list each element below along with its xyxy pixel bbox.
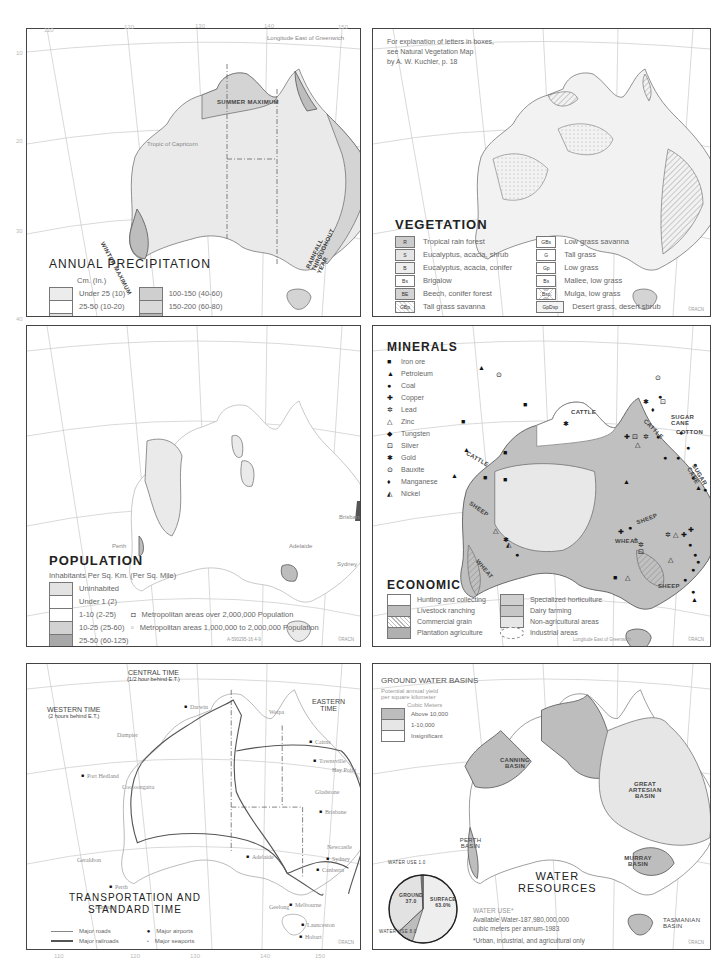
metro-legend: ◘Metropolitan areas over 2,000,000 Popul…: [131, 608, 319, 634]
coal-marker-icon: ●: [688, 541, 692, 548]
coal-marker-icon: ●: [691, 588, 695, 595]
legend-item: Insignificant: [381, 730, 478, 741]
legend-label: Insignificant: [411, 733, 443, 739]
greenwich-label: Longitude East of Greenwich: [267, 35, 344, 41]
pie-label-water-use-ground: WATER USE 1.0: [388, 860, 426, 865]
tick-label: 150: [338, 24, 348, 30]
economic-title: ECONOMIC: [387, 578, 461, 592]
petroleum-marker-icon: ▲: [451, 472, 458, 479]
tick-label: 30: [16, 228, 23, 234]
credit: ©RACN: [688, 637, 704, 642]
legend-item: 25-50 (60-125): [49, 634, 176, 647]
legend-item: GBpTall grass savanna: [395, 300, 512, 313]
city-label: Perth: [115, 884, 128, 890]
legend-swatch: [387, 627, 411, 639]
tick-label: 130: [190, 953, 200, 959]
legend-label: Livestock ranching: [417, 607, 475, 614]
city-label: Perth: [112, 543, 126, 549]
legend-code: B: [395, 262, 415, 274]
legend-label: Low grass: [564, 263, 598, 272]
coal-icon: ●: [387, 380, 401, 392]
legend-label: 150-200 (60-80): [169, 302, 223, 311]
legend-label: 1-10 (2-25): [79, 610, 116, 619]
legend-item: GpDspDesert grass, desert shrub: [536, 300, 660, 313]
map-label-sheep: SHEEP: [658, 583, 680, 589]
minerals-economic-map-panel: MINERALS ■Iron ore ▲Petroleum ●Coal ✚Cop…: [372, 325, 711, 647]
map-label-cattle: CATTLE: [571, 409, 596, 415]
legend-item: Dairy farming: [500, 605, 602, 616]
coal-marker-icon: ●: [683, 576, 687, 583]
legend-item: ◘Metropolitan areas over 2,000,000 Popul…: [131, 608, 319, 621]
tick-label: 110: [54, 953, 64, 959]
airport-marker-icon: ■: [246, 853, 249, 859]
map-label-wheat: WHEAT: [615, 538, 638, 544]
legend-code: GBp: [395, 301, 415, 313]
airport-marker-icon: ■: [301, 921, 304, 927]
legend-item: ⊡Silver: [387, 440, 438, 452]
legend-item: BsBrigalow: [395, 274, 512, 287]
city-label: Adelaide: [252, 854, 274, 860]
legend-item: ◭Nickel: [387, 488, 438, 500]
legend-unit: Inhabitants Per Sq. Km. (Per Sq. Mile): [49, 569, 176, 582]
vegetation-map-panel: For explanation of letters in boxes, see…: [372, 28, 711, 317]
bauxite-marker-icon: ⊙: [496, 371, 502, 378]
legend-swatch: [49, 608, 73, 622]
legend-item: ♦Manganese: [387, 476, 438, 488]
city-label: Sydney: [332, 856, 350, 862]
minerals-title: MINERALS: [387, 340, 458, 354]
gold-marker-icon: ✱: [563, 420, 569, 427]
legend-swatch: [381, 730, 405, 742]
copper-icon: ✚: [387, 392, 401, 404]
legend-item: SEucalyptus, acacia, shrub: [395, 248, 512, 261]
legend-label: Plantation agriculture: [417, 629, 483, 636]
basin-label-murray: MURRAY BASIN: [618, 855, 658, 867]
legend-item: △Zinc: [387, 416, 438, 428]
legend-label: Low grass savanna: [564, 237, 629, 246]
legend-code: Bs: [395, 275, 415, 287]
note-line: by A. W. Kuchler, p. 18: [387, 57, 494, 67]
footnote: *Urban, industrial, and agricultural onl…: [473, 936, 585, 945]
legend-swatch: [49, 621, 73, 635]
water-use-heading: WATER USE*: [473, 906, 585, 915]
legend-label: Over 200 (80): [169, 315, 215, 317]
legend-item: Plantation agriculture: [387, 627, 486, 638]
central-time-zone: CENTRAL TIME (1/2 hour behind E.T.): [127, 669, 180, 682]
legend-label: Under 25 (10): [79, 289, 125, 298]
legend-label: Brigalow: [423, 276, 452, 285]
legend-label: Tungsten: [401, 430, 430, 437]
gold-icon: ✱: [387, 452, 401, 464]
legend-label: Major railroads: [79, 938, 119, 944]
credit: ©RACN: [338, 940, 354, 945]
title-line: RESOURCES: [518, 882, 597, 894]
legend-label: Mulga, low grass: [564, 289, 620, 298]
bauxite-marker-icon: ⊙: [655, 374, 661, 381]
city-label: Brisbane: [339, 514, 361, 520]
water-title: WATER RESOURCES: [518, 870, 597, 894]
water-use-info: WATER USE* Available Water-187,980,000,0…: [473, 906, 585, 945]
legend-item: 50-100 (20-40): [49, 313, 129, 317]
airport-marker-icon: ■: [109, 883, 112, 889]
city-label: Launceston: [307, 922, 335, 928]
legend-item: Commercial grain: [387, 616, 486, 627]
airport-marker-icon: ■: [316, 866, 319, 872]
legend-swatch: [139, 313, 163, 317]
legend-label: Mallee, low grass: [564, 276, 622, 285]
legend-label: Nickel: [401, 490, 420, 497]
legend-label: Silver: [401, 442, 419, 449]
legend-item: 1-10,000: [381, 719, 478, 730]
silver-icon: ⊡: [387, 440, 401, 452]
coal-marker-icon: ●: [691, 566, 695, 573]
credit: ©RACN: [688, 307, 704, 312]
petroleum-marker-icon: ▲: [691, 596, 698, 603]
legend-label: 50-100 (20-40): [79, 315, 129, 317]
map-code: A-590295-16 4-9: [227, 637, 261, 642]
copper-marker-icon: ✚: [688, 526, 694, 533]
vegetation-title: VEGETATION: [395, 217, 488, 232]
greenwich-label: Longitude East of Greenwich: [573, 637, 631, 642]
zinc-marker-icon: △: [493, 527, 498, 534]
zone-note: (1/2 hour behind E.T.): [127, 676, 180, 682]
city-label: Brisbane: [325, 809, 346, 815]
city-label: Canberra: [322, 867, 344, 873]
legend-code: Gp: [536, 262, 556, 274]
legend-swatch: [49, 582, 73, 596]
